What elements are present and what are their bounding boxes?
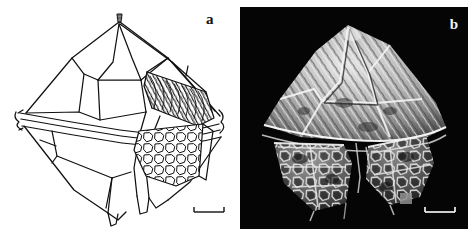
apical-horn (117, 14, 122, 22)
sem-debris-particle (400, 193, 412, 204)
panel-a-label: a (206, 12, 214, 27)
line-drawing-svg (0, 0, 236, 236)
panel-a-line-drawing: a (0, 0, 236, 236)
sem-micrograph-svg (240, 7, 468, 229)
hypocyst-plates (52, 131, 131, 213)
panel-b-sem-micrograph: b (240, 7, 468, 229)
hypocyst-reticulate-ornament (134, 124, 213, 186)
epicyst-striate-ornament (144, 62, 214, 126)
panel-b-label: b (450, 17, 458, 32)
antapical-horns (108, 196, 168, 226)
panel-b-scalebar (423, 205, 457, 215)
figure-container: a (0, 0, 472, 236)
panel-a-scalebar (192, 205, 226, 215)
